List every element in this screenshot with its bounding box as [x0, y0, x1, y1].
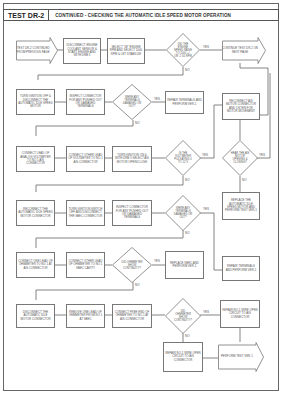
reconnect-ais-connector-step: RECONNECT THE AUTOMATIC IDLE SPEED MOTOR…: [16, 200, 55, 226]
repair-terminals-step: REPAIR TERMINALS AND PERFORM VER-1: [165, 91, 204, 114]
disconnect-coolant-sensor-step: DISCONNECT ENGINE COOLANT SENSOR & START…: [63, 38, 101, 64]
turn-ignition-off-step: TURN IGNITION OFF & DISCONNECT THE AUTOM…: [16, 89, 55, 115]
no-label: NO: [135, 283, 140, 287]
ais-motor-hear-decision: HEAR THE AIS MOTOR OPENING & CLOSING?: [222, 140, 258, 176]
select-ais-open-close-step: TURN IGNITION ON & WITH DRB II SELECT AI…: [112, 146, 152, 172]
yes-label: YES: [203, 207, 209, 211]
yes-label: YES: [154, 259, 160, 263]
no-label: NO: [242, 178, 247, 182]
yes-label: YES: [202, 153, 208, 157]
reconnect-ais-motor-step: RECONNECT AIS MOTOR CONNECTOR AND LISTEN…: [222, 93, 260, 120]
decision-text: DID OHMMETER SHOW CONTINUITY?: [165, 298, 201, 334]
yes-label: YES: [154, 97, 160, 101]
sbec-terminals-decision: WERE ANY TERMINALS DAMAGED OR OUT?: [165, 195, 201, 231]
decision-text: DID THE ENGINE SPEED RAISE TO 1000 +/- O…: [166, 33, 200, 67]
decision-text: WERE ANY TERMINALS DAMAGED OR OUT?: [112, 84, 152, 120]
connect-other-ohmmeter-lead-step: CONNECT OTHER LEAD OF OHMMETER TO NO.1 S…: [66, 252, 105, 278]
remove-ohmmeter-lead-step: REMOVE ONE LEAD OF OHMMETER FROM NO.1 AT…: [66, 304, 105, 328]
decision-text: HEAR THE AIS MOTOR OPENING & CLOSING?: [222, 140, 258, 176]
ohmmeter-continuity-decision-2: DID OHMMETER SHOW CONTINUITY?: [165, 298, 201, 334]
repair-terminals-step-2: REPAIR TERMINALS AND PERFORM VER-1: [222, 256, 260, 281]
no-label: NO: [185, 231, 190, 235]
no-label: NO: [185, 334, 190, 338]
inspect-connector-step: INSPECT CONNECTOR FOR ANY PUSHED OUT OR …: [66, 89, 105, 115]
start-text: TEST DR-2 CONTINUED FROM PREVIOUS PAGE: [16, 37, 50, 64]
disconnect-sbec-step: TURN IGNITION SWITCH OFF AND DISCONNECT …: [66, 200, 105, 226]
perform-test-ver1-box: PERFORM TEST VER-1: [218, 342, 264, 372]
repair-wire-open-circuit-step-2: REPAIR NO.1 WIRE OPEN CIRCUIT TO AIS CON…: [163, 342, 203, 372]
voltmeter-pulsating-decision: IS THE VOLTMETER PULSATING 0 TO 12 V: [165, 140, 201, 176]
yes-label: YES: [203, 45, 209, 49]
continue-text: CONTINUE TEST DR-2 ON NEXT PAGE: [222, 37, 258, 64]
terminals-damaged-decision: WERE ANY TERMINALS DAMAGED OR OUT?: [112, 84, 152, 120]
continue-next-page-box: CONTINUE TEST DR-2 ON NEXT PAGE: [222, 37, 266, 64]
ohmmeter-continuity-decision: DID OHMMETER SHOW CONTINUITY?: [112, 247, 152, 283]
select-engine-rpm-step: SELECT "08" ENGINE RPM AND SELECT 1000 R…: [107, 38, 145, 64]
perform-test-text: PERFORM TEST VER-1: [218, 342, 256, 372]
connect-other-voltmeter-lead-step: CONNECT OTHER LEAD OF VOLTMETER TO NO.1 …: [66, 146, 105, 172]
start-connector-box: TEST DR-2 CONTINUED FROM PREVIOUS PAGE: [16, 37, 58, 64]
decision-text: WERE ANY TERMINALS DAMAGED OR OUT?: [165, 195, 201, 231]
decision-text: IS THE VOLTMETER PULSATING 0 TO 12 V: [165, 140, 201, 176]
disconnect-ais-connector-step: DISCONNECT THE AUTOMATIC IDLE MOTOR CONN…: [16, 304, 55, 328]
repair-wire-open-circuit-step: REPAIR NO.1 WIRE OPEN CIRCUIT TO AIS CON…: [220, 300, 260, 328]
yes-label: YES: [259, 153, 265, 157]
inspect-sbec-connector-step: INSPECT CONNECTOR FOR ANY PUSHED OUT OR …: [112, 200, 152, 226]
engine-speed-decision: DID THE ENGINE SPEED RAISE TO 1000 +/- O…: [166, 33, 200, 67]
connect-ohmmeter-lead-step: CONNECT ONE LEAD OF OHMMETER TO NO.1 AT …: [16, 252, 55, 278]
connect-voltmeter-lead-step: CONNECT LEAD OF ANALOG VOLTMETER TO NO.1…: [16, 146, 55, 172]
yes-label: YES: [203, 310, 209, 314]
no-label: NO: [185, 68, 190, 72]
replace-ais-motor-step: REPLACE THE AUTOMATIC IDLE SPEED MOTOR A…: [222, 192, 260, 220]
connect-free-end-step: CONNECT FREE END OF OHMMETER TO NO.1 AT …: [112, 304, 152, 328]
replace-sbec-step: REPLACE SBEC AND PERFORM VER-1: [165, 251, 204, 279]
no-label: NO: [135, 121, 140, 125]
no-label: NO: [185, 178, 190, 182]
decision-text: DID OHMMETER SHOW CONTINUITY?: [112, 247, 152, 283]
